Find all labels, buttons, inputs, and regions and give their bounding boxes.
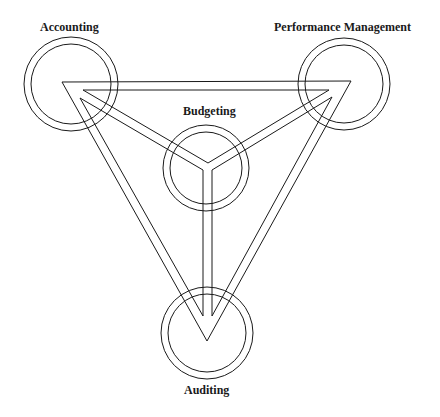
budgeting-circle [163,125,249,211]
accounting-label: Accounting [40,20,99,35]
budgeting-label: Budgeting [183,104,236,119]
performance-management-label: Performance Management [274,20,411,35]
accounting-circle [24,37,118,131]
auditing-circle [161,287,253,379]
inner-channel-top [83,90,329,163]
performance-circle [298,38,390,130]
inner-channel-right [212,97,332,316]
auditing-label: Auditing [184,383,229,398]
diagram-canvas [0,0,440,417]
